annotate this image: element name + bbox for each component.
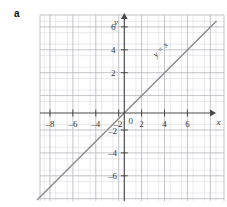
x-tick-label--8: –8	[45, 119, 56, 129]
x-tick-label-6: 6	[185, 119, 190, 129]
y-tick-label--4: –4	[107, 148, 118, 158]
coordinate-plane-chart: –8 –6 –4 –2 2 4 6 6 4 2 –2 –4 –6 0 y x y…	[0, 0, 227, 207]
x-tick-label-2: 2	[139, 119, 144, 129]
y-tick-label--6: –6	[107, 171, 118, 181]
y-axis-label: y	[113, 17, 118, 27]
x-tick-label-4: 4	[162, 119, 167, 129]
x-axis-label: x	[216, 117, 221, 127]
y-tick-label-2: 2	[111, 68, 116, 78]
figure-container: a	[0, 0, 227, 207]
y-tick-label--2: –2	[107, 126, 117, 136]
x-tick-label--6: –6	[67, 119, 78, 129]
y-tick-label-4: 4	[111, 45, 116, 55]
x-tick-label--4: –4	[90, 119, 101, 129]
origin-label: 0	[129, 116, 134, 126]
plot-background	[40, 15, 224, 201]
